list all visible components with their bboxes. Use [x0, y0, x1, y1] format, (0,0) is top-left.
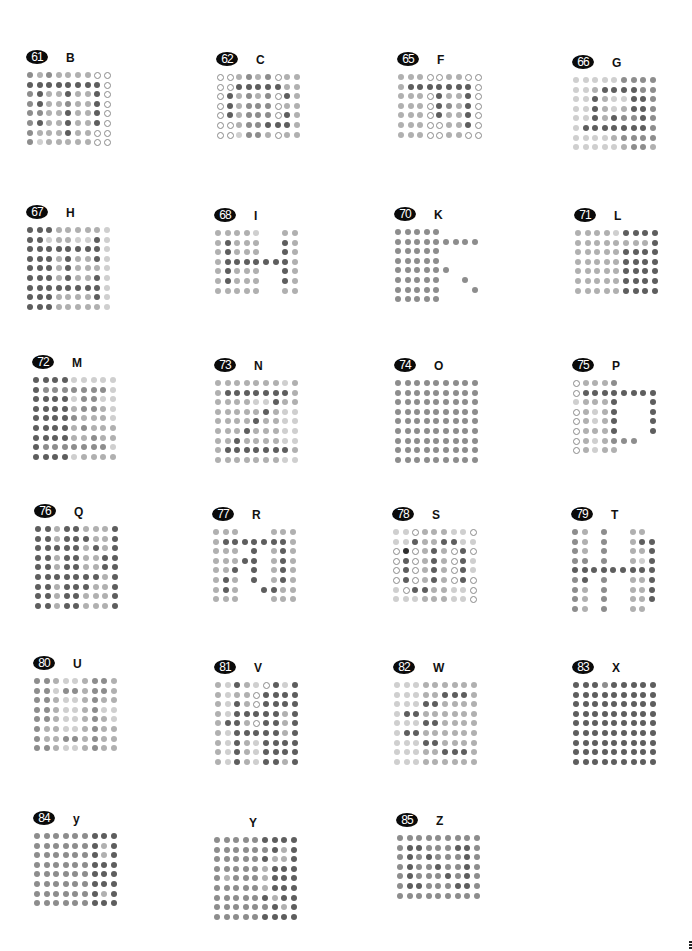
dot [435, 864, 441, 870]
dot [73, 564, 79, 570]
dot [263, 749, 269, 755]
panel-letter-label: F [437, 54, 444, 66]
dot [224, 875, 230, 881]
dot [243, 875, 249, 881]
dot [73, 545, 79, 551]
dot [234, 740, 240, 746]
dot [236, 93, 242, 99]
dot [262, 895, 268, 901]
dot [445, 845, 451, 851]
dot [242, 558, 248, 564]
dot [395, 267, 401, 273]
dot [640, 96, 646, 102]
dot [280, 558, 286, 564]
dot [435, 845, 441, 851]
dot [573, 447, 580, 454]
dot [45, 555, 51, 561]
dot [65, 246, 71, 252]
dot [232, 529, 238, 535]
dot [281, 895, 287, 901]
dot [63, 900, 69, 906]
dot [630, 539, 636, 545]
dot [244, 288, 250, 294]
dot [602, 399, 608, 405]
dot [271, 529, 277, 535]
dot [85, 120, 91, 126]
dot [215, 240, 221, 246]
dot [639, 596, 645, 602]
dot [408, 112, 414, 118]
dot [104, 246, 110, 252]
dot [281, 866, 287, 872]
dot [443, 390, 449, 396]
dot [433, 380, 439, 386]
dot [573, 106, 579, 112]
dot [573, 701, 579, 707]
dot [412, 558, 419, 565]
dot [456, 74, 462, 80]
dot [263, 692, 269, 698]
dot [650, 682, 656, 688]
dot [63, 716, 69, 722]
dot [65, 227, 71, 233]
dot [640, 144, 646, 150]
dot [27, 265, 33, 271]
dot [650, 409, 656, 415]
dot [45, 526, 51, 532]
dot [453, 409, 459, 415]
dot [44, 697, 50, 703]
dot [592, 144, 598, 150]
dot [592, 740, 598, 746]
dot [251, 567, 257, 573]
dot [583, 682, 589, 688]
dot [35, 555, 41, 561]
dot [236, 132, 242, 138]
dot [265, 132, 271, 138]
dot [621, 115, 627, 121]
dot [592, 409, 598, 415]
dot [462, 277, 468, 283]
dot [234, 692, 240, 698]
dot [275, 93, 282, 100]
dot [583, 380, 589, 386]
dot [451, 529, 457, 535]
dot [104, 275, 110, 281]
dot [583, 390, 589, 396]
dot [100, 435, 106, 441]
dot [273, 701, 279, 707]
dot [56, 110, 62, 116]
dot [44, 871, 50, 877]
dot [111, 736, 117, 742]
dot [470, 529, 477, 536]
dot [81, 444, 87, 450]
dot [282, 249, 288, 255]
dot [414, 296, 420, 302]
dot [284, 93, 290, 99]
dot [455, 864, 461, 870]
dot [436, 84, 442, 90]
dot [227, 122, 234, 129]
dot [35, 526, 41, 532]
dot [575, 288, 581, 294]
dot [433, 287, 439, 293]
dot [75, 237, 81, 243]
dot [414, 248, 420, 254]
dot [414, 409, 420, 415]
dot [271, 587, 277, 593]
dot [44, 745, 50, 751]
dot [613, 249, 619, 255]
dot [405, 390, 411, 396]
dot [244, 380, 250, 386]
dot [443, 399, 449, 405]
dot [64, 603, 70, 609]
dot [414, 267, 420, 273]
dot [395, 287, 401, 293]
dot [394, 720, 400, 726]
dot [583, 740, 589, 746]
dot [44, 736, 50, 742]
dot [292, 380, 298, 386]
dot [611, 447, 617, 453]
dot [253, 380, 259, 386]
dot [395, 447, 401, 453]
dot [407, 864, 413, 870]
